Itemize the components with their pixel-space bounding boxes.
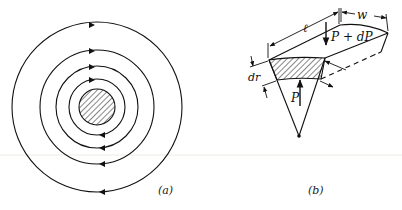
caption-b: (b) xyxy=(308,184,324,197)
arrow-left-icon xyxy=(99,145,105,151)
figure-canvas: (a) ℓ w P + dP P xyxy=(0,0,402,210)
center-point xyxy=(297,134,301,138)
hatched-core xyxy=(79,89,115,125)
label-width: w xyxy=(357,8,368,22)
side-arrow-upper xyxy=(325,61,346,70)
caption-a: (a) xyxy=(158,184,173,197)
figure-a-concentric-field xyxy=(12,22,182,192)
arrow-left-icon xyxy=(99,189,105,195)
arrow-right-icon xyxy=(89,64,95,70)
arrow-left-icon xyxy=(99,161,105,167)
arrow-right-icon xyxy=(89,48,95,54)
hatched-section xyxy=(269,57,325,80)
arrow-left-icon xyxy=(99,132,105,138)
label-load-bottom: P xyxy=(290,91,300,105)
arrow-right-icon xyxy=(89,77,95,83)
label-length: ℓ xyxy=(303,22,308,35)
side-arrow-lower xyxy=(320,81,333,87)
label-load-top: P + dP xyxy=(330,30,373,44)
arrow-right-icon xyxy=(89,22,95,28)
label-thickness: dr xyxy=(248,71,261,84)
